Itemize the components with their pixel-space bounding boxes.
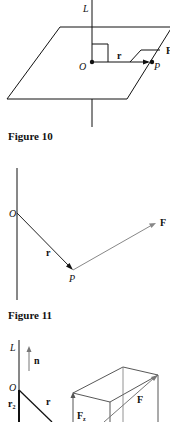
arrowhead-icon	[27, 346, 32, 352]
arrowhead-icon	[71, 392, 76, 398]
label-force-component: Fz	[77, 410, 86, 422]
force-box-top	[73, 367, 158, 402]
label-normal-n: n	[34, 355, 40, 366]
label-axis-L: L	[9, 342, 16, 353]
vector-f	[104, 378, 154, 422]
label-origin: O	[9, 382, 16, 393]
figure-12-diagram: L n O r2 r F Fz	[0, 0, 170, 422]
label-vector-r: r	[46, 396, 51, 407]
label-r2: r2	[8, 398, 15, 410]
label-force: F	[137, 394, 143, 405]
